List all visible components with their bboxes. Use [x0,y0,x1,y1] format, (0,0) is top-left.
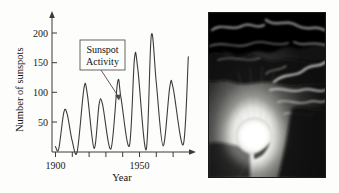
figure-root: 200 150 100 50 Number of sunspots 1900 1… [0,0,339,193]
sun-photo-panel [208,12,326,178]
x-tick-label-1900: 1900 [46,160,66,171]
sunspot-chart-panel: 200 150 100 50 Number of sunspots 1900 1… [0,0,200,193]
y-axis-title: Number of sunspots [14,47,25,132]
y-tick-label-200: 200 [33,28,48,39]
x-axis-title: Year [112,172,132,183]
callout-line-2: Activity [86,56,119,67]
callout-line-1: Sunspot [86,44,118,55]
y-axis-ticks [52,33,57,122]
y-tick-label-50: 50 [38,117,48,128]
x-axis-ticks [56,152,174,157]
sun-photo-svg [208,12,326,178]
y-axis [49,11,55,152]
x-tick-label-1950: 1950 [130,160,150,171]
sunspot-chart-svg: 200 150 100 50 Number of sunspots 1900 1… [0,0,200,193]
y-tick-label-100: 100 [33,87,48,98]
x-axis [52,149,196,154]
y-tick-label-150: 150 [33,57,48,68]
